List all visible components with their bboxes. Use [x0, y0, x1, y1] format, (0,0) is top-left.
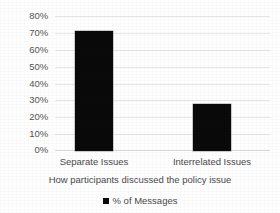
legend-label-percent-of-messages: % of Messages	[113, 194, 178, 208]
ytick-label-50: 50%	[2, 62, 48, 72]
bar-interrelated-issues	[193, 104, 231, 151]
xtick-label-interrelated-issues: Interrelated Issues	[173, 155, 251, 169]
ytick-label-10: 10%	[2, 129, 48, 139]
legend-square-marker-icon	[103, 198, 109, 204]
ytick-label-60: 60%	[2, 45, 48, 55]
bar-separate-issues	[75, 31, 113, 151]
ytick-label-0: 0%	[2, 145, 48, 155]
bar-chart: 80% 70% 60% 50% 40% 30% 20% 10% 0% Separ…	[0, 0, 280, 213]
xtick-label-separate-issues: Separate Issues	[60, 155, 129, 169]
ytick-label-30: 30%	[2, 95, 48, 105]
gridline-80	[55, 16, 270, 17]
ytick-label-40: 40%	[2, 79, 48, 89]
x-axis-title: How participants discussed the policy is…	[0, 173, 280, 187]
plot-area	[55, 16, 270, 151]
ytick-label-20: 20%	[2, 112, 48, 122]
ytick-label-80: 80%	[2, 11, 48, 21]
ytick-label-70: 70%	[2, 28, 48, 38]
x-axis-tick-labels: Separate Issues Interrelated Issues	[55, 155, 270, 171]
chart-legend: % of Messages	[0, 194, 280, 208]
